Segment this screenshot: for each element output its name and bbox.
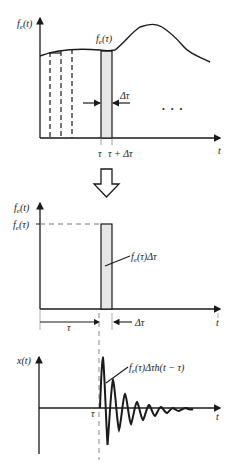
tick-tau-label: τ <box>98 148 102 159</box>
pulse-label: fe(τ)Δτ <box>131 251 157 264</box>
tick-tau-plus-label: τ + Δτ <box>108 148 133 159</box>
delta-tau-label: Δτ <box>134 317 145 328</box>
input-curve <box>40 24 210 62</box>
y-axis-label: x(t) <box>16 355 32 367</box>
level-label: fe(τ) <box>13 219 30 232</box>
delta-tau-label: Δτ <box>119 90 130 101</box>
response-leader-line <box>106 367 128 383</box>
curve-label: fe(τ) <box>96 33 113 46</box>
pulse-rect <box>101 224 112 309</box>
panel-continuous-input: fe(t) fe(τ) Δτ • • • τ τ + Δτ t <box>17 18 221 159</box>
panel-response: x(t) fe(τ)Δτh(t − τ) τ t <box>16 355 220 454</box>
response-label: fe(τ)Δτh(t − τ) <box>129 362 185 375</box>
convolution-diagram: fe(t) fe(τ) Δτ • • • τ τ + Δτ t fe(t) fe… <box>0 0 232 468</box>
x-axis-label: t <box>218 145 221 156</box>
ellipsis: • • • <box>162 105 184 114</box>
x-axis-label: t <box>216 317 219 328</box>
tick-tau-label: τ <box>91 408 95 419</box>
panel-single-pulse: fe(t) fe(τ) fe(τ)Δτ τ Δτ t <box>13 202 220 333</box>
y-axis-label: fe(t) <box>14 202 30 215</box>
y-axis-label: fe(t) <box>17 18 33 31</box>
x-axis-label: t <box>216 411 219 422</box>
pulse-strip <box>101 51 112 138</box>
tau-span-label: τ <box>67 322 71 333</box>
down-arrow-icon <box>94 169 119 197</box>
